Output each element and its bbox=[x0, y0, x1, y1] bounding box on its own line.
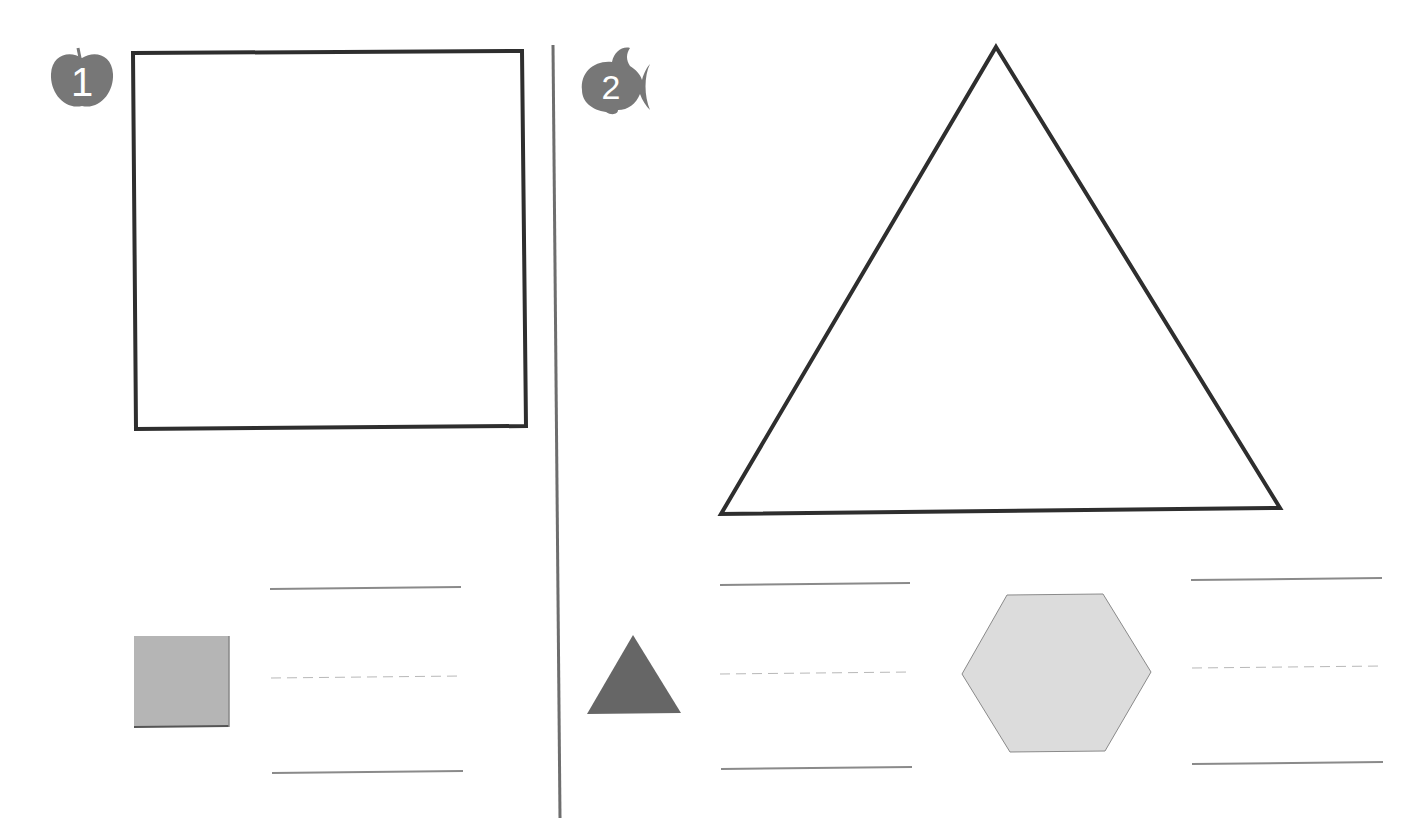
sample-hexagon bbox=[962, 594, 1151, 752]
writing-lines-2b[interactable] bbox=[1191, 578, 1383, 764]
section-number-2: 2 bbox=[596, 70, 626, 104]
worksheet-canvas bbox=[0, 0, 1416, 818]
section-number-1: 1 bbox=[70, 62, 94, 102]
writing-lines-2a[interactable] bbox=[720, 583, 912, 769]
writing-lines-1[interactable] bbox=[270, 587, 463, 773]
trace-triangle bbox=[721, 47, 1280, 514]
trace-square bbox=[133, 51, 526, 429]
sample-square bbox=[134, 636, 229, 727]
section-divider bbox=[553, 45, 560, 818]
sample-triangle bbox=[587, 635, 681, 714]
